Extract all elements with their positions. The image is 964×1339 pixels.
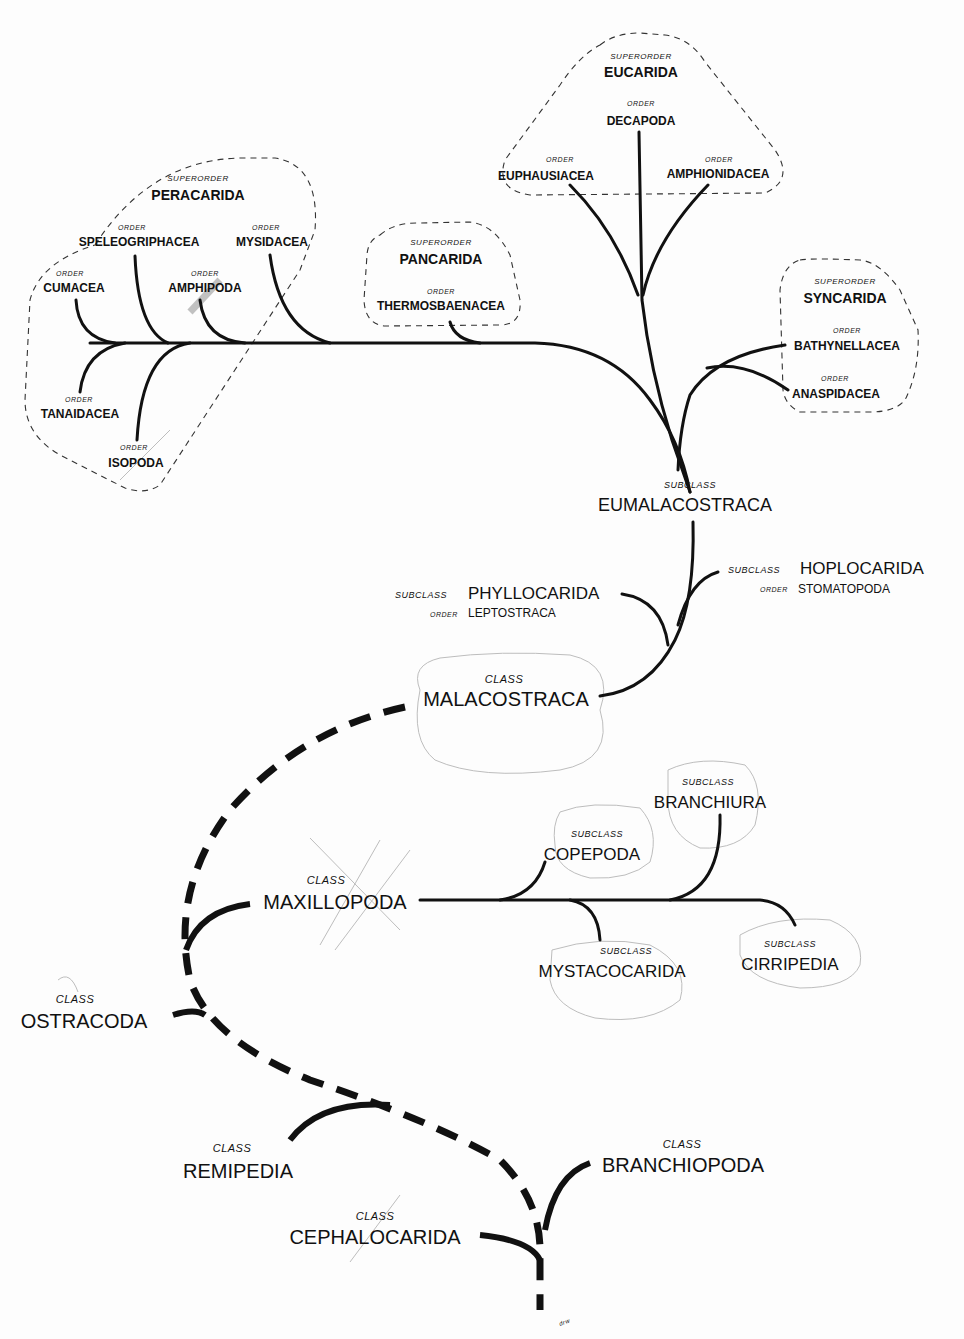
amphionidacea-label: AMPHIONIDACEA: [667, 167, 770, 181]
thermosbaenacea-label: THERMOSBAENACEA: [377, 299, 505, 313]
diagram-canvas: SUPERORDER PERACARIDA SUPERORDER PANCARI…: [0, 0, 964, 1339]
peracarida-label: PERACARIDA: [151, 187, 244, 203]
mystacocarida-rank: SUBCLASS: [600, 946, 652, 956]
class-labels: CLASS MALACOSTRACA CLASS MAXILLOPODA CLA…: [21, 673, 765, 1248]
copepoda-label: COPEPODA: [544, 845, 641, 864]
cumacea-rank: ORDER: [56, 270, 84, 277]
amphipoda-rank: ORDER: [191, 270, 219, 277]
decapoda-label: DECAPODA: [607, 114, 676, 128]
ostracoda-rank: CLASS: [56, 993, 95, 1005]
order-labels: ORDER SPELEOGRIPHACEA ORDER MYSIDACEA OR…: [41, 100, 900, 470]
stomatopoda-rank: ORDER: [760, 586, 788, 593]
stomatopoda-label: STOMATOPODA: [798, 582, 890, 596]
eumalacostraca-label: EUMALACOSTRACA: [598, 495, 772, 515]
cirripedia-rank: SUBCLASS: [764, 939, 816, 949]
malacostraca-rank: CLASS: [485, 673, 524, 685]
isopoda-label: ISOPODA: [108, 456, 164, 470]
peracarida-boundary: [25, 158, 316, 491]
thermosbaenacea-rank: ORDER: [427, 288, 455, 295]
euphausiacea-rank: ORDER: [546, 156, 574, 163]
remipedia-rank: CLASS: [213, 1142, 252, 1154]
branchiopoda-label: BRANCHIOPODA: [602, 1154, 765, 1176]
anaspidacea-label: ANASPIDACEA: [792, 387, 880, 401]
copepoda-rank: SUBCLASS: [571, 829, 623, 839]
artist-signature: drw: [558, 1317, 571, 1327]
speleogriphacea-rank: ORDER: [118, 224, 146, 231]
pencil-sketch-marks: [58, 430, 861, 1262]
phyllocarida-rank: SUBCLASS: [395, 590, 447, 600]
phylogeny-diagram: SUPERORDER PERACARIDA SUPERORDER PANCARI…: [0, 0, 964, 1339]
tanaidacea-label: TANAIDACEA: [41, 407, 120, 421]
leptostraca-label: LEPTOSTRACA: [468, 606, 556, 620]
branchiura-rank: SUBCLASS: [682, 777, 734, 787]
mysidacea-label: MYSIDACEA: [236, 235, 308, 249]
cephalocarida-rank: CLASS: [356, 1210, 395, 1222]
syncarida-rank: SUPERORDER: [814, 277, 875, 286]
eucarida-rank: SUPERORDER: [610, 52, 671, 61]
eucarida-label: EUCARIDA: [604, 64, 678, 80]
malacostraca-label: MALACOSTRACA: [423, 688, 589, 710]
cephalocarida-label: CEPHALOCARIDA: [289, 1226, 461, 1248]
leptostraca-rank: ORDER: [430, 611, 458, 618]
pancarida-rank: SUPERORDER: [410, 238, 471, 247]
hoplocarida-label: HOPLOCARIDA: [800, 559, 924, 578]
bathynellacea-rank: ORDER: [833, 327, 861, 334]
amphipoda-label: AMPHIPODA: [168, 281, 242, 295]
cirripedia-label: CIRRIPEDIA: [741, 955, 839, 974]
branchiura-label: BRANCHIURA: [654, 793, 767, 812]
speleogriphacea-label: SPELEOGRIPHACEA: [79, 235, 200, 249]
remipedia-label: REMIPEDIA: [183, 1160, 294, 1182]
ostracoda-label: OSTRACODA: [21, 1010, 148, 1032]
maxillopoda-rank: CLASS: [307, 874, 346, 886]
eumalacostraca-rank: SUBCLASS: [664, 480, 716, 490]
euphausiacea-label: EUPHAUSIACEA: [498, 169, 594, 183]
maxillopoda-label: MAXILLOPODA: [263, 891, 407, 913]
peracarida-rank: SUPERORDER: [167, 174, 228, 183]
branchiopoda-rank: CLASS: [663, 1138, 702, 1150]
pancarida-label: PANCARIDA: [400, 251, 483, 267]
cumacea-label: CUMACEA: [43, 281, 105, 295]
anaspidacea-rank: ORDER: [821, 375, 849, 382]
isopoda-rank: ORDER: [120, 444, 148, 451]
mystacocarida-label: MYSTACOCARIDA: [538, 962, 686, 981]
amphionidacea-rank: ORDER: [705, 156, 733, 163]
subclass-labels: SUBCLASS EUMALACOSTRACA SUBCLASS HOPLOCA…: [395, 480, 924, 981]
bathynellacea-label: BATHYNELLACEA: [794, 339, 900, 353]
decapoda-rank: ORDER: [627, 100, 655, 107]
phyllocarida-label: PHYLLOCARIDA: [468, 584, 600, 603]
tanaidacea-rank: ORDER: [65, 396, 93, 403]
mysidacea-rank: ORDER: [252, 224, 280, 231]
hoplocarida-rank: SUBCLASS: [728, 565, 780, 575]
syncarida-label: SYNCARIDA: [803, 290, 886, 306]
